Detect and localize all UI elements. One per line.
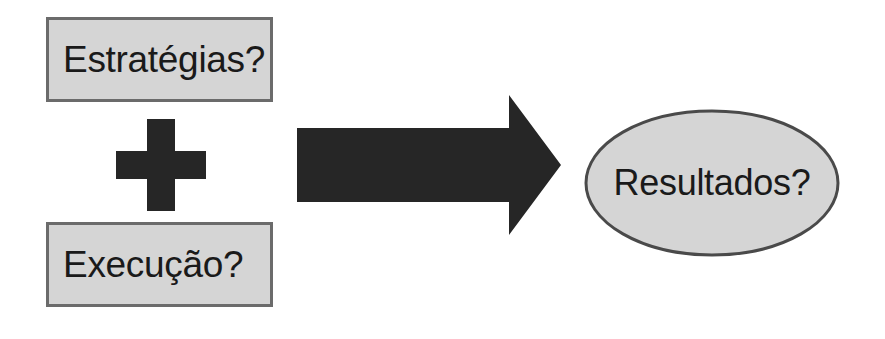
- plus-sign-icon: [116, 119, 206, 211]
- plus-sign-horizontal-bar: [116, 151, 206, 179]
- node-execution-label: Execução?: [49, 246, 243, 283]
- diagram-canvas: Estratégias? Execução? Resultados?: [0, 0, 885, 339]
- node-results: Resultados?: [583, 108, 841, 258]
- node-execution: Execução?: [46, 222, 273, 307]
- node-strategies-label: Estratégias?: [49, 41, 265, 78]
- right-block-arrow-icon: [295, 92, 563, 238]
- node-strategies: Estratégias?: [46, 17, 273, 102]
- node-results-label: Resultados?: [583, 108, 841, 258]
